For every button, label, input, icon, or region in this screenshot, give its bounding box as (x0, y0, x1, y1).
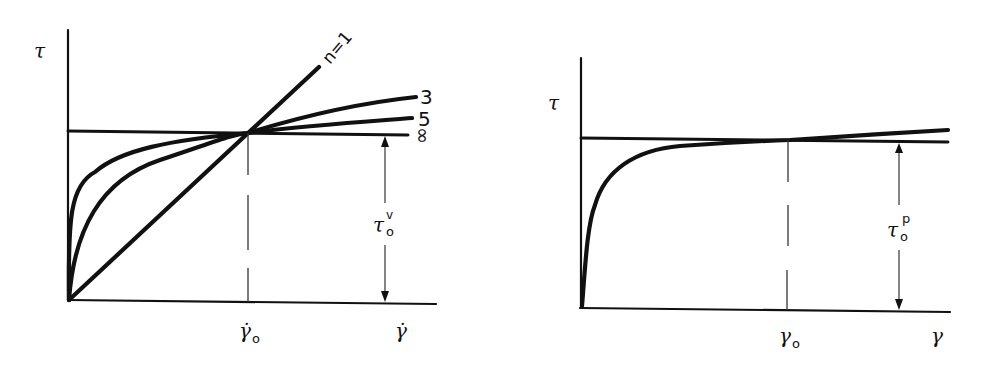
left-x-axis (68, 300, 436, 304)
right-dim-sup: p (902, 211, 910, 226)
left-curve-n5 (69, 118, 412, 300)
left-curve-n3 (69, 97, 416, 300)
curve-label-3: 3 (420, 85, 433, 109)
right-x-axis (580, 308, 950, 312)
left-dim-sub: o (386, 224, 394, 239)
left-x-axis-label: γ̇ (395, 319, 407, 343)
right-x-axis-label: γ (931, 324, 943, 348)
left-arrow-down-icon (381, 291, 389, 302)
left-dim-sup: v (386, 208, 393, 222)
diagram-canvas: τ γ̇ γ̇ o τ o v n=1 3 5 ∞ τ γ γ o τ o p (0, 0, 983, 373)
right-x-marker-sub: o (792, 336, 800, 351)
left-panel: τ γ̇ γ̇ o τ o v n=1 3 5 ∞ (34, 27, 436, 346)
right-dim-label: τ (887, 218, 899, 242)
right-panel: τ γ γ o τ o p (548, 58, 950, 351)
left-x-marker-sub: o (252, 331, 260, 346)
right-arrow-down-icon (895, 299, 903, 310)
left-arrow-up-icon (381, 136, 389, 147)
right-x-marker-label: γ (779, 324, 791, 348)
curve-label-inf: ∞ (409, 127, 433, 144)
left-curve-n1 (69, 67, 319, 300)
right-arrow-up-icon (895, 143, 903, 153)
curve-label-n1: n=1 (318, 27, 356, 67)
left-y-axis-label: τ (34, 39, 46, 63)
left-dim-label: τ (373, 213, 385, 237)
right-dim-sub: o (900, 229, 908, 244)
left-x-marker-label: γ̇ (239, 319, 251, 343)
right-y-axis-label: τ (548, 91, 560, 115)
